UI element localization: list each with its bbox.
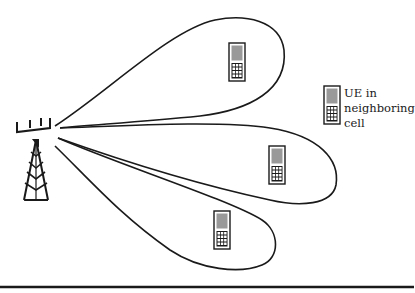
beam-upper [55, 18, 284, 128]
cell-tower-icon [17, 118, 50, 200]
beam-lower [55, 138, 276, 270]
ue-1-phone-icon [229, 43, 245, 81]
legend-line-1: UE in [344, 86, 415, 101]
legend-line-3: cell [344, 116, 415, 131]
legend-line-2: neighboring [344, 101, 415, 116]
legend-label: UE in neighboring cell [344, 86, 415, 131]
legend-phone-icon [324, 86, 340, 124]
ue-3-phone-icon [214, 211, 230, 249]
ue-2-phone-icon [269, 146, 285, 184]
